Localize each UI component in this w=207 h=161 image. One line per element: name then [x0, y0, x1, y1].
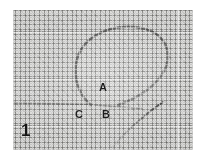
figure-number: 1	[21, 122, 30, 139]
micrograph-plate: A B C 1	[13, 10, 193, 150]
specimen-label-c: C	[75, 109, 83, 120]
specimen-label-b: B	[102, 109, 110, 120]
figure-panel: A B C 1	[0, 0, 207, 161]
loop-interior-shading	[77, 36, 165, 100]
specimen-drawing	[13, 10, 193, 150]
horizontal-filament	[13, 103, 93, 105]
specimen-label-a: A	[99, 82, 107, 93]
